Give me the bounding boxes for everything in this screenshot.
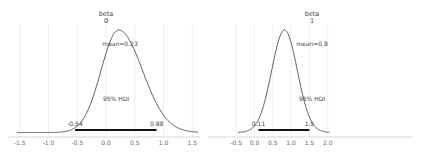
hdi-label: 95% HDI [299,95,325,102]
x-tick-label: -1.5 [14,139,26,146]
mean-label: mean=0.8 [296,40,328,47]
panel-beta-1: -0.50.00.51.01.52.0 beta 1 mean=0.8 95% … [208,10,412,146]
x-tick-label: 0.5 [268,139,278,146]
panel-beta-0: -1.5-1.0-0.50.00.51.01.5 beta 0 mean=0.2… [8,10,200,146]
x-tick-label: 1.0 [159,139,169,146]
x-tick-label: -0.5 [230,139,242,146]
x-tick-label: -1.0 [43,139,55,146]
mean-label: mean=0.23 [102,40,138,47]
panel-subtitle: 0 [104,17,108,25]
hdi-high-label: 1.5 [305,120,315,127]
x-tick-label: 0.0 [101,139,111,146]
x-tick-label: 1.5 [187,139,197,146]
x-tick-label: 1.0 [286,139,296,146]
panel-subtitle: 1 [310,17,314,25]
x-tick-label: 0.5 [130,139,140,146]
hdi-label: 95% HDI [103,95,129,102]
posterior-plot: -1.5-1.0-0.50.00.51.01.5 beta 0 mean=0.2… [0,0,421,155]
hdi-high-label: 0.88 [150,120,164,127]
x-tick-label: 2.0 [323,139,333,146]
x-tick-label: -0.5 [71,139,83,146]
x-tick-label: 0.0 [250,139,260,146]
hdi-low-label: 0.11 [252,120,266,127]
hdi-low-label: -0.54 [67,120,83,127]
x-tick-label: 1.5 [305,139,315,146]
